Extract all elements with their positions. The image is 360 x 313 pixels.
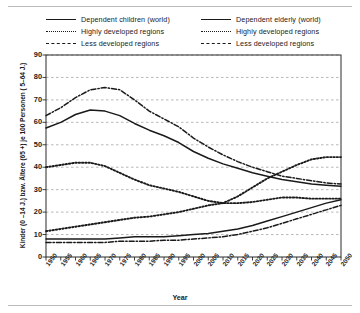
chart-canvas [0, 0, 360, 313]
series-line [46, 110, 341, 186]
series-line [46, 88, 341, 185]
series-line [46, 157, 341, 231]
plot-area: Kinder (0 –14 J.) bzw. Ältere (65 +) je … [0, 0, 360, 313]
chart-figure: Dependent children (world) Highly develo… [0, 0, 360, 313]
series-line [46, 163, 341, 203]
